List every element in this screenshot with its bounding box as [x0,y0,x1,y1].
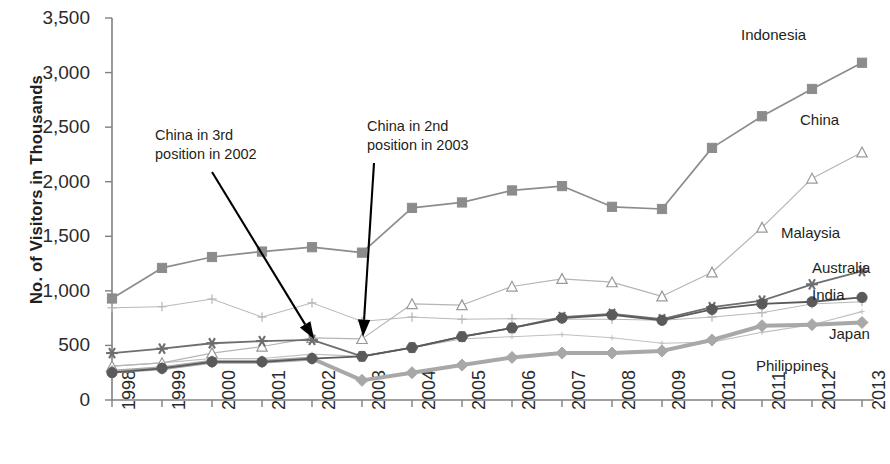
data-point [707,143,716,152]
series-indonesia [107,58,866,303]
data-point [407,312,416,321]
data-point [457,332,467,342]
data-point [107,294,116,303]
annotation-china-3rd-2002: China in 3rd position in 2002 [155,126,257,163]
data-point [407,203,416,212]
data-point [357,248,366,257]
data-point [857,147,867,157]
data-point [806,319,818,331]
data-point [857,58,866,67]
data-point [307,298,316,307]
data-point [407,343,417,353]
data-point [107,303,116,312]
series-china [107,147,867,371]
data-point [707,304,717,314]
data-point [406,367,418,379]
data-point [157,302,166,311]
data-point [706,334,718,346]
data-point [257,312,266,321]
data-point [556,347,568,359]
series-lines [106,58,868,386]
series-label-japan: Japan [829,325,870,342]
data-point [207,357,217,367]
annotation-china-2nd-2003: China in 2nd position in 2003 [367,117,469,154]
data-point [657,315,667,325]
series-label-australia: Australia [812,259,870,276]
data-point [656,345,668,357]
series-label-malaysia: Malaysia [781,224,840,241]
data-point [157,263,166,272]
annotation-line-2: position in 2002 [155,145,257,164]
data-point [807,173,817,183]
data-point [357,351,367,361]
data-point [857,292,867,302]
data-point [507,314,516,323]
data-point [609,335,614,340]
axis-lines [105,18,874,407]
data-point [207,252,216,261]
data-point [557,181,566,190]
data-point [756,320,768,332]
data-point [607,202,616,211]
series-malaysia [107,294,866,326]
data-point [509,334,514,339]
annotation-line-1: China in 2nd [367,117,469,136]
data-point [156,344,168,354]
data-point [207,294,216,303]
series-label-philippines: Philippines [756,357,829,374]
data-point [356,374,368,386]
data-point [507,323,517,333]
data-point [307,353,317,363]
data-point [307,243,316,252]
data-point [859,309,864,314]
data-point [506,351,518,363]
data-point [456,359,468,371]
data-point [257,357,267,367]
series-label-indonesia: Indonesia [741,26,806,43]
annotation-line-1: China in 3rd [155,126,257,145]
data-point [457,198,466,207]
data-point [757,112,766,121]
data-point [157,363,167,373]
data-point [606,347,618,359]
data-point [807,84,816,93]
data-point [557,313,567,323]
series-india [107,292,867,378]
series-label-china: China [800,111,839,128]
data-point [507,186,516,195]
data-point [757,299,767,309]
data-point [657,204,666,213]
data-point [107,368,117,378]
series-label-india: India [812,286,845,303]
data-point [657,291,667,301]
data-point [607,310,617,320]
data-point [559,332,564,337]
annotation-line-2: position in 2003 [367,136,469,155]
data-point [457,315,466,324]
